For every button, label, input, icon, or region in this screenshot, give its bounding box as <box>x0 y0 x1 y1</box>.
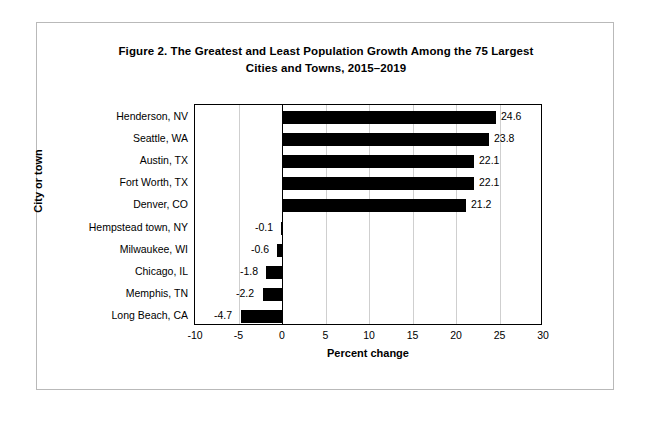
figure-title-line-1: Figure 2. The Greatest and Least Populat… <box>67 43 585 60</box>
category-label: Seattle, WA <box>133 132 188 144</box>
category-label: Hempstead town, NY <box>89 221 188 233</box>
bar-row: Milwaukee, WI -0.6 <box>195 240 541 262</box>
bar <box>282 155 474 168</box>
x-tick-label: -5 <box>219 329 259 341</box>
category-label: Henderson, NV <box>116 110 188 122</box>
bar <box>263 288 282 301</box>
category-label: Chicago, IL <box>135 265 188 277</box>
bar-row: Fort Worth, TX 22.1 <box>195 173 541 195</box>
bar <box>266 266 282 279</box>
figure-title: Figure 2. The Greatest and Least Populat… <box>67 43 585 77</box>
plot-area: Henderson, NV 24.6 Seattle, WA 23.8 Aust… <box>194 104 542 325</box>
figure-frame: Figure 2. The Greatest and Least Populat… <box>36 22 614 390</box>
bar <box>241 310 282 323</box>
x-axis-title: Percent change <box>194 347 542 359</box>
bar-row: Austin, TX 22.1 <box>195 151 541 173</box>
x-tick-label: -10 <box>175 329 215 341</box>
bar-row: Memphis, TN -2.2 <box>195 284 541 306</box>
value-label: 21.2 <box>471 198 491 210</box>
bar <box>282 177 474 190</box>
category-label: Austin, TX <box>140 154 188 166</box>
value-label: 23.8 <box>494 132 514 144</box>
bar <box>277 244 282 257</box>
x-tick-label: 20 <box>436 329 476 341</box>
x-tick-label: 5 <box>306 329 346 341</box>
bar <box>282 133 489 146</box>
bar-row: Long Beach, CA -4.7 <box>195 306 541 328</box>
value-label: -0.1 <box>255 221 273 233</box>
bar-row: Henderson, NV 24.6 <box>195 107 541 129</box>
value-label: -4.7 <box>214 309 232 321</box>
x-tick-label: 30 <box>523 329 563 341</box>
bar-row: Hempstead town, NY -0.1 <box>195 218 541 240</box>
y-axis-title: City or town <box>32 149 44 213</box>
category-label: Memphis, TN <box>126 287 188 299</box>
value-label: -1.8 <box>240 265 258 277</box>
category-label: Denver, CO <box>133 198 188 210</box>
value-label: 24.6 <box>501 110 521 122</box>
category-label: Milwaukee, WI <box>120 243 188 255</box>
bar-row: Chicago, IL -1.8 <box>195 262 541 284</box>
figure-title-line-2: Cities and Towns, 2015–2019 <box>67 60 585 77</box>
bar <box>282 111 496 124</box>
bar-row: Denver, CO 21.2 <box>195 195 541 217</box>
x-tick-label: 25 <box>480 329 520 341</box>
category-label: Fort Worth, TX <box>120 176 188 188</box>
category-label: Long Beach, CA <box>112 309 188 321</box>
bar-row: Seattle, WA 23.8 <box>195 129 541 151</box>
bar <box>282 199 466 212</box>
value-label: -0.6 <box>251 243 269 255</box>
value-label: 22.1 <box>479 176 499 188</box>
x-tick-label: 15 <box>393 329 433 341</box>
value-label: 22.1 <box>479 154 499 166</box>
bar <box>281 222 282 235</box>
value-label: -2.2 <box>236 287 254 299</box>
x-tick-label: 0 <box>262 329 302 341</box>
x-tick-label: 10 <box>349 329 389 341</box>
